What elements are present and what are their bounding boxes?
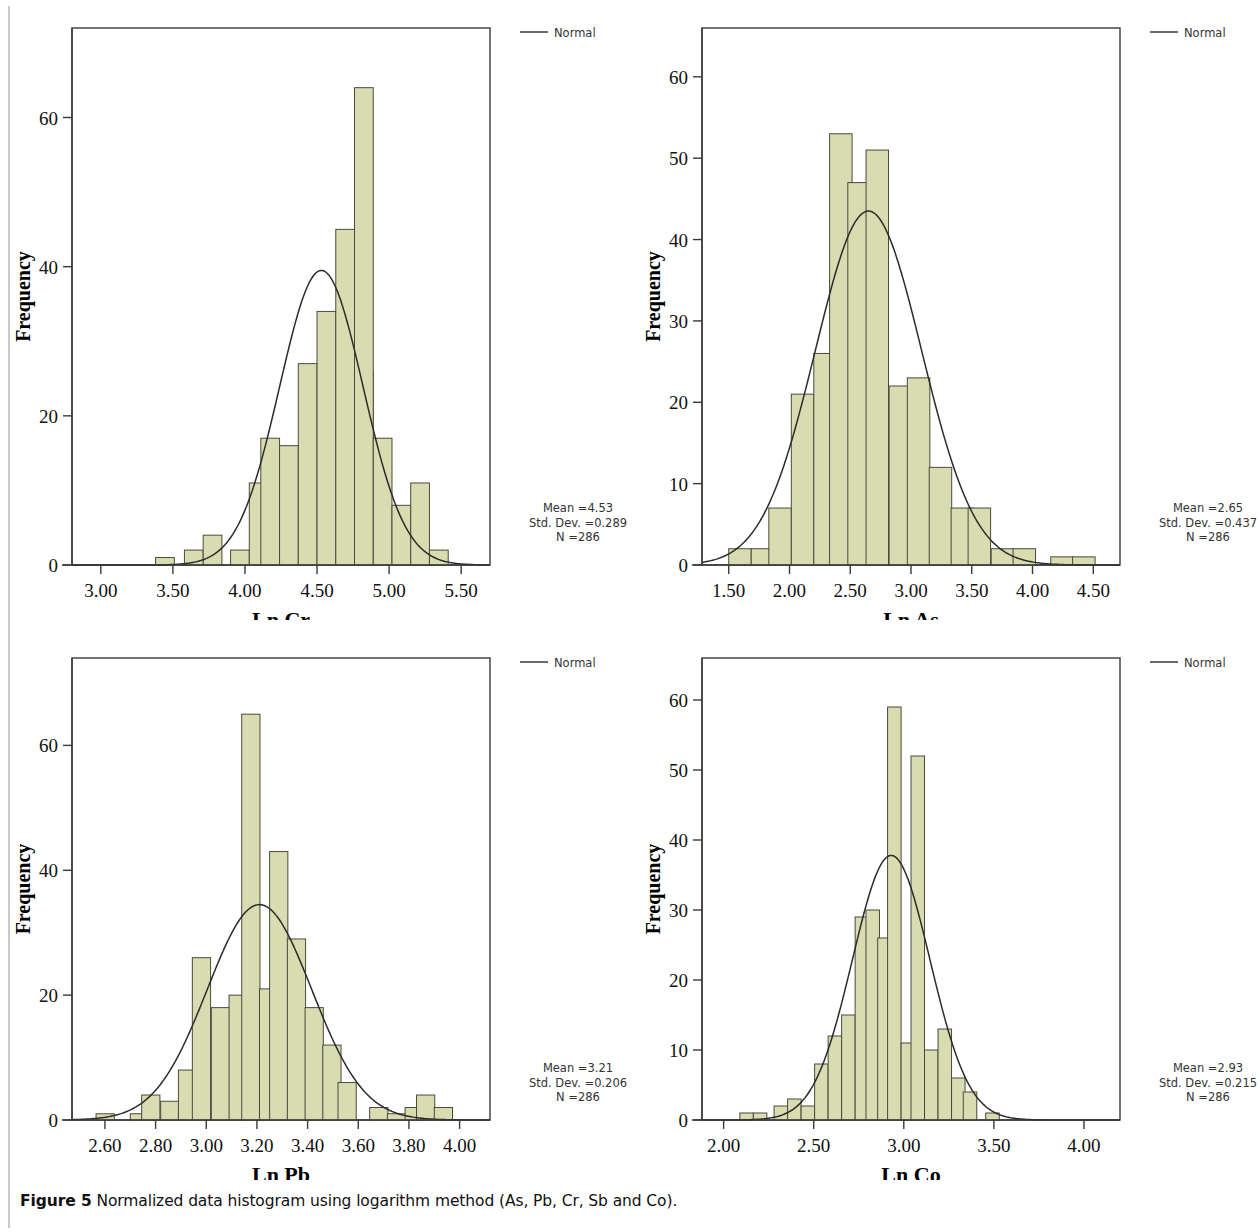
y-axis-title: Frequency <box>12 844 35 935</box>
histogram-bar <box>429 550 448 565</box>
histogram-bar <box>963 1092 977 1120</box>
bars-group <box>96 714 452 1120</box>
histogram-bar <box>417 1095 435 1120</box>
x-tick-label: 3.80 <box>392 1135 425 1156</box>
stat-n: N =286 <box>556 1090 600 1104</box>
legend-label: Normal <box>554 26 596 40</box>
y-tick-label: 40 <box>39 860 58 881</box>
y-tick-label: 40 <box>669 830 688 851</box>
x-tick-label: 3.60 <box>342 1135 375 1156</box>
x-tick-label: 3.00 <box>84 580 117 601</box>
y-tick-label: 60 <box>669 690 688 711</box>
y-tick-label: 30 <box>669 900 688 921</box>
x-axis-title: Ln Cr <box>252 607 310 620</box>
histogram-bar <box>242 714 260 1120</box>
x-tick-label: 2.00 <box>773 580 806 601</box>
histogram-bar <box>791 394 813 565</box>
bars-group <box>729 134 1095 565</box>
histogram-svg-ln-pb: 2.602.803.003.203.403.603.804.000204060F… <box>0 620 630 1180</box>
x-tick-label: 3.40 <box>291 1135 324 1156</box>
x-tick-label: 5.00 <box>372 580 405 601</box>
x-tick-label: 2.00 <box>707 1135 740 1156</box>
histogram-bar <box>338 1083 356 1120</box>
stat-std-dev: Std. Dev. =0.206 <box>529 1076 627 1090</box>
stat-std-dev: Std. Dev. =0.437 <box>1159 516 1257 530</box>
y-tick-label: 20 <box>39 985 58 1006</box>
bars-group <box>740 707 999 1120</box>
legend-label: Normal <box>1184 26 1226 40</box>
histogram-bar <box>305 1008 323 1120</box>
histogram-bar <box>1073 557 1095 565</box>
histogram-bar <box>911 756 925 1120</box>
x-tick-label: 5.50 <box>445 580 478 601</box>
y-tick-label: 0 <box>679 555 689 576</box>
histogram-bar <box>929 467 951 565</box>
histogram-bar <box>336 229 355 565</box>
y-tick-label: 10 <box>669 474 688 495</box>
histogram-bar <box>888 707 902 1120</box>
legend-label: Normal <box>1184 656 1226 670</box>
stat-mean: Mean =2.65 <box>1173 501 1243 515</box>
histogram-bar <box>298 364 317 565</box>
y-tick-label: 20 <box>39 406 58 427</box>
histogram-bar <box>769 508 791 565</box>
x-tick-label: 2.50 <box>834 580 867 601</box>
figure-caption: Figure 5 Normalized data histogram using… <box>20 1192 1240 1210</box>
x-axis-title: Ln Pb <box>252 1162 310 1180</box>
x-tick-label: 2.60 <box>88 1135 121 1156</box>
histogram-bar <box>925 1050 939 1120</box>
x-tick-label: 3.50 <box>955 580 988 601</box>
histogram-svg-ln-co: 2.002.503.003.504.000102030405060Frequen… <box>630 620 1260 1180</box>
histogram-bar <box>317 311 336 565</box>
histogram-bar <box>828 1036 842 1120</box>
histogram-bar <box>161 1101 179 1120</box>
y-tick-label: 40 <box>669 230 688 251</box>
x-tick-label: 4.00 <box>1016 580 1049 601</box>
x-tick-label: 4.50 <box>1077 580 1110 601</box>
stat-n: N =286 <box>556 530 600 544</box>
histogram-bar <box>373 438 392 565</box>
x-tick-label: 4.50 <box>300 580 333 601</box>
stat-n: N =286 <box>1186 530 1230 544</box>
stat-std-dev: Std. Dev. =0.215 <box>1159 1076 1257 1090</box>
stat-std-dev: Std. Dev. =0.289 <box>529 516 627 530</box>
histogram-bar <box>142 1095 160 1120</box>
x-tick-label: 3.00 <box>190 1135 223 1156</box>
stat-mean: Mean =3.21 <box>543 1061 613 1075</box>
histogram-panel-ln-co: 2.002.503.003.504.000102030405060Frequen… <box>630 620 1260 1180</box>
histogram-bar <box>392 505 411 565</box>
y-tick-label: 50 <box>669 148 688 169</box>
histogram-bar <box>842 1015 856 1120</box>
y-tick-label: 20 <box>669 970 688 991</box>
y-axis-title: Frequency <box>642 844 665 935</box>
figure-caption-text: Normalized data histogram using logarith… <box>92 1192 678 1210</box>
y-tick-label: 60 <box>669 67 688 88</box>
histogram-bar <box>370 1108 388 1120</box>
histogram-bar <box>270 852 288 1120</box>
histogram-bar <box>280 446 299 565</box>
bars-group <box>156 88 449 565</box>
y-tick-label: 60 <box>39 108 58 129</box>
histogram-bar <box>938 1029 952 1120</box>
x-tick-label: 3.50 <box>977 1135 1010 1156</box>
histogram-bar <box>434 1108 452 1120</box>
x-tick-label: 3.50 <box>156 580 189 601</box>
y-tick-label: 0 <box>49 555 59 576</box>
figure-panel-grid: 3.003.504.004.505.005.500204060Frequency… <box>0 0 1260 1185</box>
y-tick-label: 0 <box>49 1110 59 1131</box>
histogram-bar <box>801 1106 815 1120</box>
x-axis-title: Ln Co <box>881 1162 940 1180</box>
y-tick-label: 10 <box>669 1040 688 1061</box>
y-tick-label: 40 <box>39 257 58 278</box>
y-tick-label: 50 <box>669 760 688 781</box>
histogram-svg-ln-cr: 3.003.504.004.505.005.500204060Frequency… <box>0 0 630 620</box>
histogram-bar <box>355 88 374 565</box>
x-tick-label: 2.50 <box>797 1135 830 1156</box>
histogram-svg-ln-as: 1.502.002.503.003.504.004.50010203040506… <box>630 0 1260 620</box>
histogram-bar <box>907 378 929 565</box>
histogram-bar <box>192 958 210 1120</box>
x-tick-label: 4.00 <box>443 1135 476 1156</box>
stat-n: N =286 <box>1186 1090 1230 1104</box>
y-tick-label: 60 <box>39 735 58 756</box>
y-tick-label: 30 <box>669 311 688 332</box>
